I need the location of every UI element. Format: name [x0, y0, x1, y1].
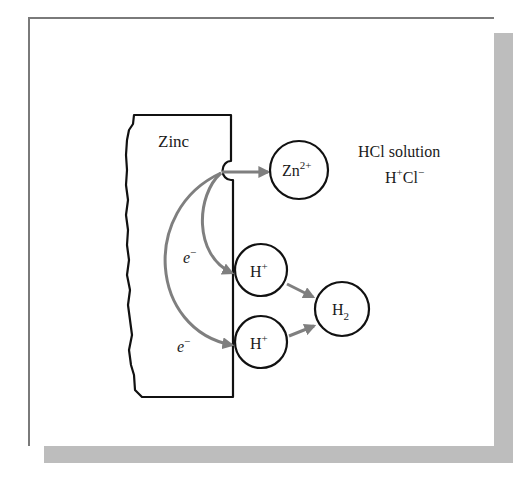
- proton-top: H+: [235, 244, 287, 296]
- solution-ions: H+Cl−: [385, 166, 424, 186]
- electron-path-inner: [202, 173, 232, 273]
- combine-arrow-bottom: [289, 326, 314, 336]
- combine-arrow-top: [287, 284, 313, 297]
- solution-label: HCl solution: [358, 143, 440, 160]
- corrosion-diagram: Zinc Zn2+ HCl solution H+Cl− H+ H+ H2 e−…: [0, 0, 530, 478]
- zinc-label: Zinc: [158, 132, 190, 151]
- zinc-ion: Zn2+: [270, 141, 328, 199]
- proton-bottom: H+: [235, 316, 287, 368]
- electron-label-top: e−: [183, 246, 196, 266]
- electron-path-outer: [165, 173, 232, 345]
- electron-label-bottom: e−: [177, 335, 190, 355]
- hydrogen-molecule: H2: [315, 282, 369, 336]
